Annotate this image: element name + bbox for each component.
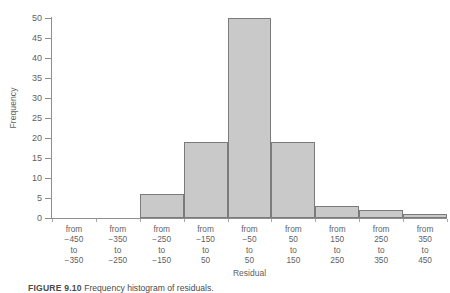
x-tick-mark <box>315 219 316 222</box>
x-category-label-line: from <box>140 224 184 234</box>
x-category-label-line: to <box>184 245 228 255</box>
x-category-label-line: to <box>228 245 272 255</box>
x-category-label-line: −250 <box>140 234 184 244</box>
y-tick-mark <box>45 218 51 219</box>
histogram-bar <box>315 206 359 218</box>
x-category-label-line: −150 <box>184 234 228 244</box>
x-category-label: from−450to−350 <box>52 224 96 265</box>
figure-caption-number: FIGURE 9.10 <box>28 283 82 293</box>
x-category-label-line: 150 <box>315 234 359 244</box>
x-category-label: from−350to−250 <box>96 224 140 265</box>
x-category-label: from50to150 <box>271 224 315 265</box>
figure-caption-text: Frequency histogram of residuals. <box>84 283 213 293</box>
x-tick-mark <box>96 219 97 222</box>
x-category-label-line: to <box>96 245 140 255</box>
x-category-label-line: 50 <box>184 255 228 265</box>
y-tick-mark <box>45 178 51 179</box>
figure-container: Frequency 05101520253035404550 from−450t… <box>0 0 450 293</box>
y-tick-label: 20 <box>0 134 42 143</box>
x-category-label-line: from <box>315 224 359 234</box>
y-tick-label: 15 <box>0 154 42 163</box>
x-category-label-line: 350 <box>359 255 403 265</box>
y-tick-mark <box>45 78 51 79</box>
y-tick-label: 25 <box>0 114 42 123</box>
x-category-label-line: to <box>359 245 403 255</box>
y-tick-label: 50 <box>0 14 42 23</box>
y-tick-mark <box>45 18 51 19</box>
y-tick-mark <box>45 58 51 59</box>
y-tick-mark <box>45 118 51 119</box>
x-category-label-line: to <box>52 245 96 255</box>
histogram-bar <box>271 142 315 218</box>
y-tick-label: 35 <box>0 74 42 83</box>
x-tick-mark <box>52 219 53 222</box>
y-tick-label: 5 <box>0 194 42 203</box>
x-category-label-line: from <box>403 224 447 234</box>
x-category-label: from−50to50 <box>228 224 272 265</box>
x-tick-mark <box>403 219 404 222</box>
y-tick-mark <box>45 98 51 99</box>
x-tick-mark <box>447 219 448 222</box>
histogram-bar <box>359 210 403 218</box>
histogram-bar <box>184 142 228 218</box>
x-category-label-line: −50 <box>228 234 272 244</box>
y-tick-label: 45 <box>0 34 42 43</box>
x-category-label-line: to <box>140 245 184 255</box>
histogram-bars <box>52 18 447 218</box>
x-category-label-line: from <box>359 224 403 234</box>
x-category-label: from150to250 <box>315 224 359 265</box>
y-tick-mark <box>45 198 51 199</box>
x-category-label-line: from <box>184 224 228 234</box>
x-category-label-line: 250 <box>315 255 359 265</box>
x-category-label-line: −450 <box>52 234 96 244</box>
y-tick-mark <box>45 138 51 139</box>
x-tick-mark <box>359 219 360 222</box>
x-tick-mark <box>271 219 272 222</box>
y-tick-mark <box>45 38 51 39</box>
x-category-label-line: from <box>96 224 140 234</box>
x-category-label-line: 50 <box>271 234 315 244</box>
y-tick-label: 30 <box>0 94 42 103</box>
x-category-label-line: 450 <box>403 255 447 265</box>
x-category-label-line: −350 <box>52 255 96 265</box>
x-tick-mark <box>140 219 141 222</box>
x-axis-label: Residual <box>52 268 447 278</box>
x-category-label: from350to450 <box>403 224 447 265</box>
y-tick-label: 10 <box>0 174 42 183</box>
x-category-label-line: 150 <box>271 255 315 265</box>
x-category-label-line: from <box>228 224 272 234</box>
y-tick-label: 0 <box>0 214 42 223</box>
x-category-label: from−150to50 <box>184 224 228 265</box>
x-category-label-line: to <box>271 245 315 255</box>
x-category-label-line: from <box>52 224 96 234</box>
y-tick-label: 40 <box>0 54 42 63</box>
x-axis-category-labels: from−450to−350from−350to−250from−250to−1… <box>52 224 447 268</box>
x-category-label-line: to <box>403 245 447 255</box>
x-axis-line <box>51 218 447 219</box>
x-category-label: from250to350 <box>359 224 403 265</box>
x-category-label-line: −150 <box>140 255 184 265</box>
x-category-label-line: 250 <box>359 234 403 244</box>
x-category-label-line: −350 <box>96 234 140 244</box>
x-category-label-line: 350 <box>403 234 447 244</box>
histogram-bar <box>403 214 447 218</box>
x-tick-mark <box>184 219 185 222</box>
y-tick-mark <box>45 158 51 159</box>
x-category-label: from−250to−150 <box>140 224 184 265</box>
histogram-bar <box>140 194 184 218</box>
figure-caption: FIGURE 9.10 Frequency histogram of resid… <box>28 283 448 293</box>
x-tick-mark <box>228 219 229 222</box>
x-category-label-line: −250 <box>96 255 140 265</box>
histogram-bar <box>228 18 272 218</box>
x-category-label-line: to <box>315 245 359 255</box>
x-category-label-line: 50 <box>228 255 272 265</box>
x-category-label-line: from <box>271 224 315 234</box>
